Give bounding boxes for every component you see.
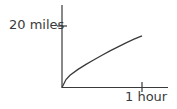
x-tick-label: 1 hour (125, 89, 167, 104)
distance-time-chart: 20 miles 1 hour (0, 0, 177, 109)
y-tick-label: 20 miles (9, 17, 64, 32)
distance-curve (62, 36, 142, 88)
